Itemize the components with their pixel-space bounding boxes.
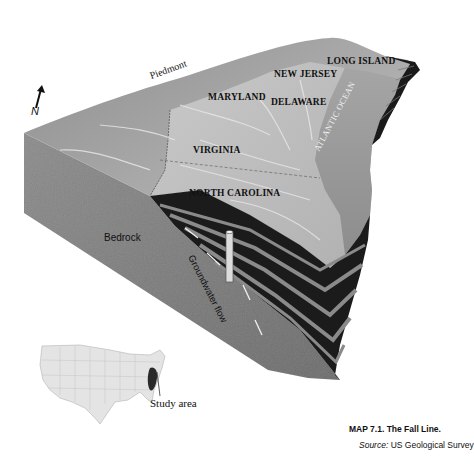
north-carolina-label: NORTH CAROLINA (189, 188, 280, 198)
source-prefix: Source: (359, 440, 388, 450)
caption-title: MAP 7.1. The Fall Line. (349, 424, 441, 434)
figure-caption: MAP 7.1. The Fall Line. (349, 424, 441, 434)
study-area-highlight (148, 367, 157, 390)
source-text: US Geological Survey (388, 440, 474, 450)
well-icon (226, 230, 233, 282)
virginia-label: VIRGINIA (193, 145, 241, 155)
inset-us-map (40, 345, 165, 424)
bedrock-label: Bedrock (104, 232, 141, 243)
maryland-label: MARYLAND (208, 92, 266, 102)
north-label: N (31, 105, 39, 117)
study-area-label: Study area (150, 397, 197, 409)
delaware-label: DELAWARE (271, 97, 326, 107)
new-jersey-label: NEW JERSEY (274, 69, 337, 79)
long-island-label: LONG ISLAND (327, 56, 395, 66)
figure-source: Source: US Geological Survey (359, 440, 474, 450)
